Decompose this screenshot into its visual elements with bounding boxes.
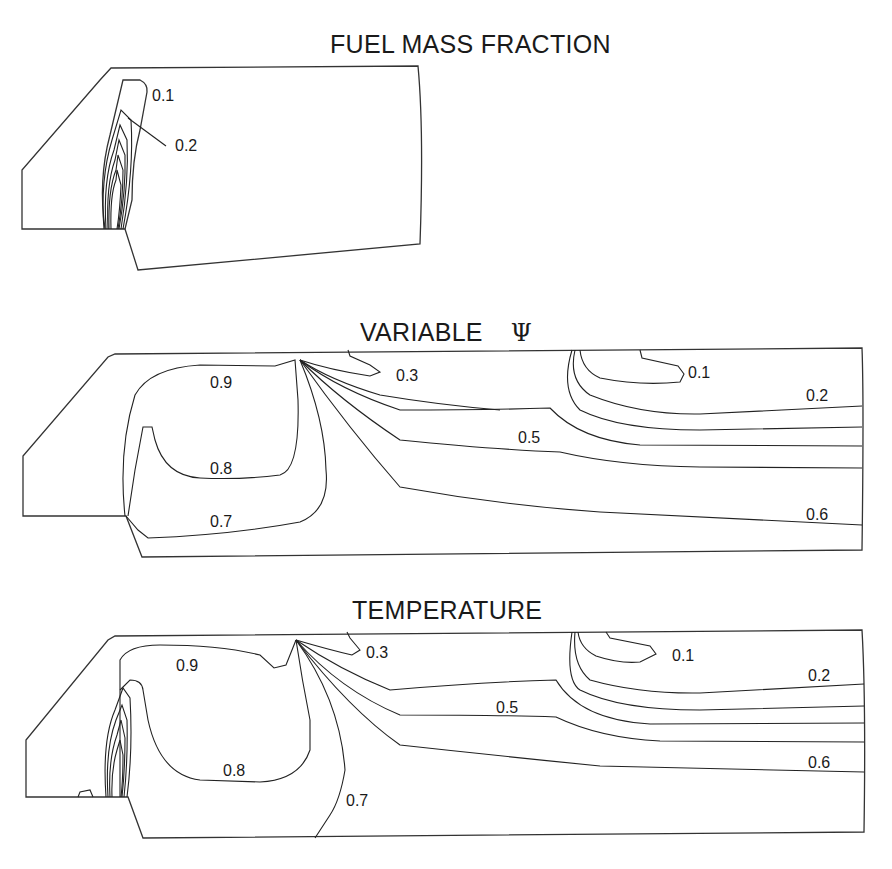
contour-figure: 0.1 0.2 0.9 0.3 0.1 0.2 0.5 0.8 0.7 0.6 — [0, 0, 892, 869]
psi-label-0.6: 0.6 — [806, 506, 828, 523]
temp-contour-0.1 — [578, 632, 656, 662]
psi-label-0.1: 0.1 — [688, 364, 710, 381]
fuel-label-0.2: 0.2 — [175, 137, 197, 154]
temp-label-0.8: 0.8 — [223, 762, 245, 779]
psi-label-0.7: 0.7 — [210, 513, 232, 530]
temperature-panel: 0.9 0.3 0.1 0.2 0.5 0.8 0.7 0.6 — [26, 630, 865, 838]
temp-label-0.5: 0.5 — [496, 699, 518, 716]
temp-contour-flame-2 — [107, 705, 127, 797]
temp-label-0.9: 0.9 — [176, 657, 198, 674]
temp-label-0.1: 0.1 — [672, 647, 694, 664]
psi-label-0.3: 0.3 — [396, 367, 418, 384]
psi-contour-0.5b — [300, 360, 862, 446]
psi-contour-0.1 — [580, 350, 684, 383]
fuel-label-0.1: 0.1 — [152, 87, 174, 104]
variable-psi-panel: 0.9 0.3 0.1 0.2 0.5 0.8 0.7 0.6 — [23, 348, 863, 557]
temp-label-0.2: 0.2 — [808, 667, 830, 684]
temp-contour-0.8 — [120, 640, 310, 782]
psi-contour-0.6 — [300, 360, 862, 525]
psi-label-0.9: 0.9 — [210, 374, 232, 391]
fuel-mass-fraction-panel: 0.1 0.2 — [22, 66, 422, 270]
psi-label-0.8: 0.8 — [210, 460, 232, 477]
temp-contour-small-blob — [78, 790, 93, 797]
psi-label-0.2: 0.2 — [806, 387, 828, 404]
temp-label-0.6: 0.6 — [808, 754, 830, 771]
temp-label-0.3: 0.3 — [366, 644, 388, 661]
temp-contour-0.9 — [120, 640, 296, 797]
psi-label-0.5: 0.5 — [518, 429, 540, 446]
psi-contour-right-0.2 — [573, 350, 862, 414]
label-leader-line — [128, 118, 166, 146]
temp-label-0.7: 0.7 — [346, 792, 368, 809]
psi-contour-0.5a — [300, 360, 862, 468]
combustor-outline — [22, 66, 422, 270]
